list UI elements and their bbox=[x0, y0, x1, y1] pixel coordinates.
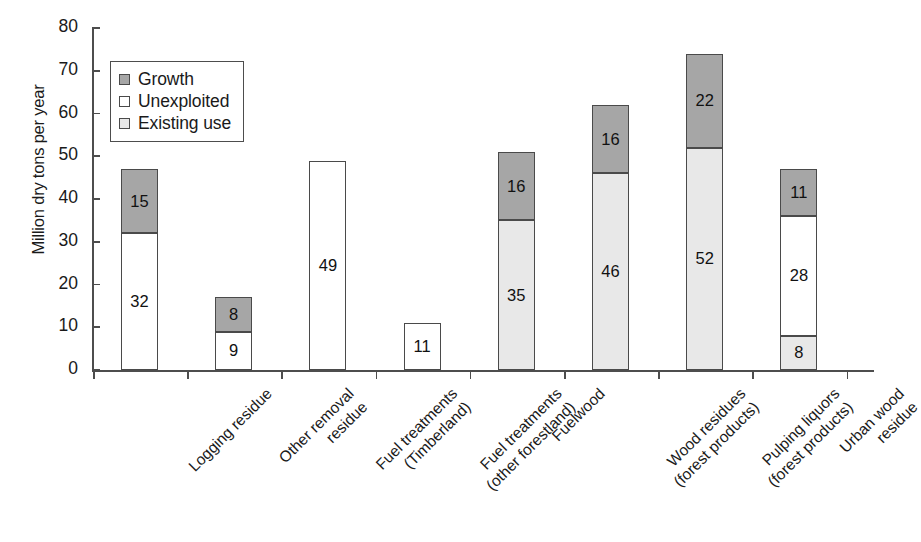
legend-label-growth: Growth bbox=[138, 69, 194, 90]
x-tick-mark-1 bbox=[187, 371, 189, 379]
legend-label-existing-use: Existing use bbox=[138, 113, 231, 134]
bar-value-label: 11 bbox=[790, 183, 807, 202]
bar-value-label: 35 bbox=[507, 286, 525, 305]
x-axis-label-line: Logging residue bbox=[184, 384, 275, 475]
x-axis-label-line: residue bbox=[288, 397, 371, 480]
x-tick-mark-0 bbox=[93, 371, 95, 379]
legend-item-growth: Growth bbox=[119, 68, 231, 90]
y-tick-label: 80 bbox=[59, 16, 78, 37]
bar-value-label: 22 bbox=[696, 91, 714, 110]
bar-group: 5222 bbox=[686, 28, 723, 370]
x-axis-label-3: Fuel treatments(other forestland) bbox=[469, 384, 579, 494]
y-axis-title: Million dry tons per year bbox=[29, 40, 48, 300]
x-axis-label-4: Fuelwood bbox=[548, 384, 609, 445]
chart-legend: Growth Unexploited Existing use bbox=[110, 61, 244, 142]
x-axis-label-1: Other removalresidue bbox=[274, 384, 370, 480]
x-axis-line bbox=[92, 370, 874, 372]
x-axis-label-0: Logging residue bbox=[184, 384, 275, 475]
legend-swatch-existing-use-icon bbox=[119, 118, 130, 129]
bar-value-label: 11 bbox=[414, 337, 431, 356]
x-tick-mark-4 bbox=[470, 371, 472, 379]
bar-group: 4616 bbox=[592, 28, 629, 370]
x-axis-label-line: (forest products) bbox=[669, 397, 762, 490]
x-tick-mark-8 bbox=[847, 371, 849, 379]
bar-segment-existing-use: 35 bbox=[498, 220, 535, 370]
x-axis-label-line: (forest products) bbox=[763, 397, 856, 490]
bar-group: 3516 bbox=[498, 28, 535, 370]
bar-value-label: 49 bbox=[319, 256, 337, 275]
bar-value-label: 8 bbox=[794, 343, 803, 362]
legend-swatch-unexploited-icon bbox=[119, 96, 130, 107]
bar-segment-growth: 15 bbox=[121, 169, 158, 233]
x-tick-mark-3 bbox=[376, 371, 378, 379]
x-axis-label-line: Wood residues bbox=[656, 384, 749, 477]
x-axis-label-line: Pulping liquors bbox=[750, 384, 843, 477]
x-axis-label-line: Urban wood bbox=[835, 384, 908, 457]
x-axis-label-line: (Timberland) bbox=[385, 397, 475, 487]
bar-segment-growth: 8 bbox=[215, 297, 252, 331]
x-axis-label-2: Fuel treatments(Timberland) bbox=[371, 384, 474, 487]
bar-value-label: 8 bbox=[229, 305, 238, 324]
bar-segment-existing-use: 8 bbox=[780, 336, 817, 370]
legend-swatch-growth-icon bbox=[119, 74, 130, 85]
bar-segment-growth: 22 bbox=[686, 54, 723, 148]
bar-segment-unexploited: 11 bbox=[404, 323, 441, 370]
legend-label-unexploited: Unexploited bbox=[138, 91, 229, 112]
bar-value-label: 32 bbox=[130, 292, 148, 311]
bar-value-label: 46 bbox=[601, 262, 619, 281]
bar-value-label: 28 bbox=[790, 266, 808, 285]
y-tick-label: 50 bbox=[59, 144, 78, 165]
x-axis-label-6: Pulping liquors(forest products) bbox=[750, 384, 857, 491]
y-tick-label: 70 bbox=[59, 59, 78, 80]
y-tick-label: 40 bbox=[59, 187, 78, 208]
x-axis-label-5: Wood residues(forest products) bbox=[656, 384, 763, 491]
bar-value-label: 15 bbox=[130, 192, 148, 211]
bar-value-label: 9 bbox=[229, 341, 238, 360]
bar-segment-existing-use: 46 bbox=[592, 173, 629, 370]
bar-value-label: 16 bbox=[507, 177, 525, 196]
x-tick-mark-2 bbox=[281, 371, 283, 379]
y-tick-label: 10 bbox=[59, 315, 78, 336]
y-tick-label: 60 bbox=[59, 102, 78, 123]
bar-segment-unexploited: 9 bbox=[215, 332, 252, 370]
x-axis-label-line: Fuel treatments bbox=[469, 384, 566, 481]
bar-segment-growth: 16 bbox=[498, 152, 535, 220]
bar-group: 49 bbox=[309, 28, 346, 370]
legend-item-existing-use: Existing use bbox=[119, 112, 231, 134]
bar-segment-growth: 11 bbox=[780, 169, 817, 216]
x-tick-mark-6 bbox=[658, 371, 660, 379]
x-tick-mark-7 bbox=[752, 371, 754, 379]
x-axis-label-7: Urban woodresidue bbox=[835, 384, 921, 470]
y-tick-label: 20 bbox=[59, 273, 78, 294]
legend-item-unexploited: Unexploited bbox=[119, 90, 231, 112]
bar-segment-unexploited: 28 bbox=[780, 216, 817, 336]
x-axis-label-line: residue bbox=[849, 397, 921, 470]
x-axis-label-line: Other removal bbox=[274, 384, 357, 467]
bar-segment-existing-use: 52 bbox=[686, 148, 723, 370]
x-tick-mark-5 bbox=[564, 371, 566, 379]
y-tick-label: 0 bbox=[68, 358, 78, 379]
bar-group: 11 bbox=[404, 28, 441, 370]
x-axis-label-line: Fuelwood bbox=[548, 384, 609, 445]
bar-segment-unexploited: 49 bbox=[309, 161, 346, 370]
bar-group: 82811 bbox=[780, 28, 817, 370]
bar-segment-unexploited: 32 bbox=[121, 233, 158, 370]
bar-value-label: 16 bbox=[601, 130, 619, 149]
x-axis-label-line: (other forestland) bbox=[482, 397, 579, 494]
bar-segment-growth: 16 bbox=[592, 105, 629, 173]
y-tick-label: 30 bbox=[59, 230, 78, 251]
bar-value-label: 52 bbox=[696, 249, 714, 268]
x-axis-label-line: Fuel treatments bbox=[371, 384, 461, 474]
